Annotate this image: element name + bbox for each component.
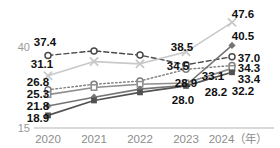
data-value-label: 21.8 bbox=[27, 100, 50, 112]
x-category-label-2021: 2021 bbox=[81, 133, 107, 145]
data-value-label: 28.2 bbox=[205, 86, 227, 98]
data-value-label: 32.2 bbox=[232, 85, 254, 97]
data-point-marker bbox=[137, 89, 143, 95]
data-value-label: 34.5 bbox=[167, 60, 190, 72]
data-value-label: 40.5 bbox=[232, 30, 255, 42]
data-point-marker bbox=[91, 48, 97, 54]
data-value-label: 33.4 bbox=[238, 73, 261, 85]
series-line-1 bbox=[48, 22, 232, 75]
data-point-marker bbox=[137, 52, 143, 58]
data-point-marker bbox=[91, 85, 96, 90]
line-chart: 20202021202220232024（年） 4015 37.431.126.… bbox=[0, 0, 280, 148]
y-tick-label: 40 bbox=[18, 41, 30, 53]
data-value-label: 33.1 bbox=[202, 70, 225, 82]
x-category-label-2020: 2020 bbox=[35, 133, 61, 145]
data-point-marker bbox=[229, 69, 235, 75]
data-value-label: 38.5 bbox=[171, 41, 194, 53]
data-point-marker bbox=[91, 98, 97, 104]
x-category-label-2023: 2023 bbox=[173, 133, 199, 145]
x-category-label-2024: 2024（年） bbox=[209, 132, 268, 145]
data-value-label: 28.9 bbox=[175, 77, 197, 89]
data-value-label: 31.1 bbox=[31, 58, 54, 70]
x-category-label-2022: 2022 bbox=[127, 133, 153, 145]
data-value-label: 37.4 bbox=[34, 36, 57, 48]
x-category-labels: 20202021202220232024（年） bbox=[35, 132, 267, 145]
chart-canvas: 20202021202220232024（年） 4015 37.431.126.… bbox=[0, 0, 280, 148]
data-point-marker bbox=[229, 54, 235, 60]
data-value-label: 25.3 bbox=[27, 88, 49, 100]
data-value-label: 18.9 bbox=[27, 112, 49, 124]
data-value-label: 26.8 bbox=[27, 76, 50, 88]
series-lines-group bbox=[48, 22, 232, 115]
data-value-label: 47.6 bbox=[232, 8, 254, 20]
data-value-label: 28.0 bbox=[172, 94, 194, 106]
